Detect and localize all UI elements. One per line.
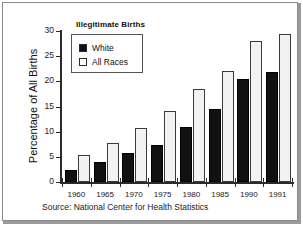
legend: White All Races	[71, 34, 143, 73]
bar	[65, 170, 77, 182]
bar	[266, 72, 278, 182]
bar	[209, 109, 221, 182]
bar	[222, 71, 234, 182]
plot-area: Percentage of All Births Illegitimate Bi…	[0, 0, 303, 228]
bar	[164, 111, 176, 182]
legend-item-white: White	[79, 42, 114, 54]
bar	[78, 155, 90, 182]
legend-label-all-races: All Races	[92, 58, 128, 67]
bar	[193, 89, 205, 182]
bar	[237, 79, 249, 182]
bar	[122, 153, 134, 182]
bar	[135, 128, 147, 182]
legend-swatch-white-icon	[79, 44, 87, 52]
legend-item-all-races: All Races	[79, 56, 128, 68]
chart-screenshot: Percentage of All Births Illegitimate Bi…	[0, 0, 303, 228]
bar	[94, 162, 106, 182]
bar	[180, 127, 192, 182]
legend-swatch-all-races-icon	[79, 58, 87, 66]
bars-group	[0, 0, 303, 228]
bar	[250, 41, 262, 182]
bar	[151, 145, 163, 182]
legend-label-white: White	[92, 44, 114, 53]
source-note: Source: National Center for Health Stati…	[42, 202, 208, 212]
bar	[279, 34, 291, 182]
bar	[107, 143, 119, 182]
